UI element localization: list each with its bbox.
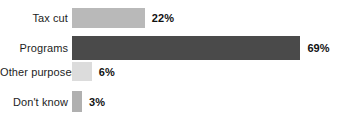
bar-category-label: Don't know [0, 96, 72, 108]
bar-segment [72, 62, 92, 81]
bar-row: Tax cut22% [0, 8, 349, 28]
bar-value-label: 6% [99, 66, 115, 78]
bar-segment [72, 8, 145, 28]
bar-category-label: Other purposes [0, 66, 72, 78]
bar-track: 22% [72, 8, 349, 28]
bar-segment [72, 91, 82, 112]
bar-row: Other purposes6% [0, 62, 349, 81]
bar-row: Don't know3% [0, 91, 349, 112]
bar-category-label: Programs [0, 42, 72, 54]
bar-value-label: 69% [307, 42, 329, 54]
bar-track: 3% [72, 91, 349, 112]
bar-track: 69% [72, 36, 349, 60]
bar-category-label: Tax cut [0, 12, 72, 24]
horizontal-bar-chart: Tax cut22%Programs69%Other purposes6%Don… [0, 0, 349, 126]
bar-track: 6% [72, 62, 349, 81]
bar-row: Programs69% [0, 36, 349, 60]
bar-value-label: 22% [152, 12, 174, 24]
bar-segment [72, 36, 300, 60]
bar-value-label: 3% [89, 96, 105, 108]
